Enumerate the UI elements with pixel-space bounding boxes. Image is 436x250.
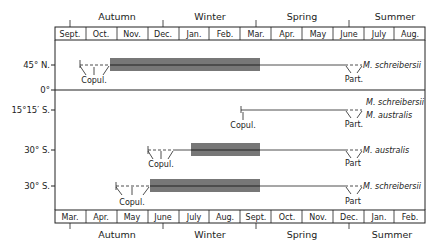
month-label: Apr. xyxy=(279,30,295,39)
month-label: Oct. xyxy=(279,213,295,222)
month-label: May xyxy=(310,30,327,39)
latitude-label: 0° xyxy=(40,85,50,95)
species-label: M. australis xyxy=(366,111,412,120)
month-label: Jan. xyxy=(186,30,202,39)
month-label: July xyxy=(371,30,387,39)
parturition-label: Part. xyxy=(345,75,363,84)
row-30s-schreibersii: 30° S. Copul. Part M. schreibersii xyxy=(24,179,422,207)
row-15s: 15°15′ S. Copul. Part. M. schreibersii M… xyxy=(11,98,424,130)
month-label: Dec. xyxy=(154,30,172,39)
species-label: M. schreibersii xyxy=(363,61,422,70)
parturition-label: Part. xyxy=(345,120,363,129)
copulation-label: Copul. xyxy=(119,198,144,207)
month-label: Sept. xyxy=(246,213,267,222)
month-label: July xyxy=(186,213,202,222)
season-label: Spring xyxy=(287,229,318,240)
month-label: Feb. xyxy=(217,30,234,39)
month-label: Jan. xyxy=(371,213,387,222)
season-label: Spring xyxy=(287,11,318,22)
top-month-axis: Sept. Oct. Nov. Dec. Jan. Feb. Mar. Apr.… xyxy=(55,27,425,40)
month-label: Nov. xyxy=(123,30,141,39)
row-30s-australis: 30° S. Copul. Part M. australis xyxy=(24,143,409,169)
copulation-label: Copul. xyxy=(81,76,106,85)
row-45n: 45° N. Copul. Part. M. schreibersii xyxy=(23,58,422,85)
top-season-labels: Autumn Winter Spring Summer xyxy=(70,11,415,27)
species-label: M. schreibersii xyxy=(363,182,422,191)
latitude-label: 30° S. xyxy=(24,181,50,191)
bat-reproductive-cycle-chart: Autumn Winter Spring Summer Sept. Oct. N… xyxy=(0,0,436,250)
latitude-label: 15°15′ S. xyxy=(11,105,50,115)
season-label: Winter xyxy=(194,229,225,240)
month-label: Apr. xyxy=(93,213,109,222)
parturition-label: Part xyxy=(345,159,361,168)
season-label: Summer xyxy=(375,11,415,22)
species-label: M. schreibersii xyxy=(366,98,425,107)
month-label: Aug. xyxy=(401,30,419,39)
season-label: Winter xyxy=(194,11,225,22)
bottom-month-axis: Mar. Apr. May June July Aug. Sept. Oct. … xyxy=(55,210,425,223)
month-label: June xyxy=(153,213,172,222)
latitude-label: 30° S. xyxy=(24,145,50,155)
parturition-label: Part xyxy=(345,197,361,206)
month-label: May xyxy=(124,213,141,222)
month-label: Oct. xyxy=(93,30,109,39)
season-label: Autumn xyxy=(98,11,136,22)
month-label: Mar. xyxy=(62,213,79,222)
month-label: Mar. xyxy=(248,30,265,39)
copulation-label: Copul. xyxy=(148,160,173,169)
row-equator: 0° xyxy=(40,85,425,95)
season-label: Summer xyxy=(372,229,412,240)
species-label: M. australis xyxy=(363,146,409,155)
month-label: Sept. xyxy=(60,30,81,39)
copulation-label: Copul. xyxy=(230,121,255,130)
month-label: June xyxy=(339,30,358,39)
month-label: Feb. xyxy=(402,213,419,222)
latitude-label: 45° N. xyxy=(23,60,50,70)
month-label: Aug. xyxy=(216,213,234,222)
month-label: Dec. xyxy=(340,213,358,222)
month-label: Nov. xyxy=(309,213,327,222)
season-label: Autumn xyxy=(98,229,136,240)
bottom-season-labels: Autumn Winter Spring Summer xyxy=(70,223,412,240)
